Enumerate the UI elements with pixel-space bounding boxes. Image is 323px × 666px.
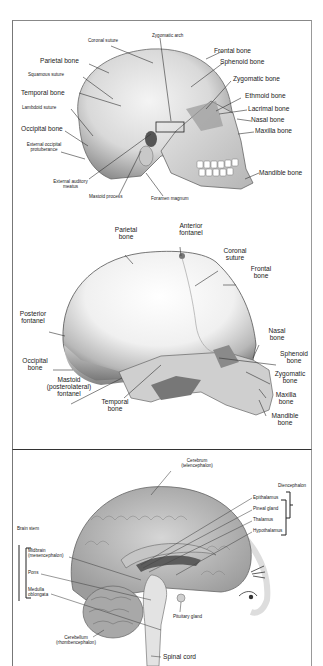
label-maxilla-bone: Maxilla bone [255, 127, 292, 134]
label-external-occipital-protuberance: External occipital protuberance [19, 142, 69, 153]
label-sphenoid-bone: Sphenoid bone [220, 58, 264, 65]
label-cerebellum: Cerebellum (rhombencephalon) [48, 635, 104, 646]
label-frontal-bone: Frontal bone [245, 265, 277, 279]
label-occipital-bone: Occipital bone [17, 357, 53, 371]
label-cerebrum: Cerebrum (telencephalon) [173, 458, 221, 469]
label-diencephalon: Diencephalon [278, 483, 306, 488]
brain-panel: Cerebrum (telencephalon) Diencephalon Ep… [12, 450, 312, 666]
label-occipital-bone: Occipital bone [21, 125, 63, 132]
label-frontal-bone: Frontal bone [214, 47, 251, 54]
label-parietal-bone: Parietal bone [40, 57, 79, 64]
label-nasal-bone: Nasal bone [263, 327, 291, 341]
label-temporal-bone: Temporal bone [96, 398, 134, 412]
label-zygomatic-arch: Zygomatic arch [152, 33, 183, 38]
label-medulla-oblongata: Medulla oblongata [28, 587, 48, 598]
label-epithalamus: Epithalamus [253, 495, 278, 500]
label-midbrain: Midbrain (mesencephalon) [28, 548, 64, 559]
label-coronal-suture: Coronal suture [88, 38, 118, 43]
label-hypothalamus: Hypothalamus [253, 528, 282, 533]
label-thalamus: Thalamus [253, 517, 273, 522]
label-external-auditory-meatus: External auditory meatus [43, 179, 98, 190]
label-nasal-bone: Nasal bone [251, 116, 284, 123]
label-mastoid-fontanel: Mastoid (posterolateral) fontanel [41, 376, 97, 398]
label-temporal-bone: Temporal bone [21, 89, 65, 96]
label-squamous-suture: Squamous suture [28, 72, 64, 77]
label-zygomatic-bone: Zygomatic bone [270, 370, 310, 384]
label-coronal-suture: Coronal suture [217, 247, 253, 261]
label-pituitary-gland: Pituitary gland [173, 614, 202, 619]
label-pons: Pons [28, 570, 38, 575]
label-mandible-bone: Mandible bone [259, 169, 302, 176]
label-mandible-bone: Mandible bone [267, 412, 303, 426]
label-foramen-magnum: Foramen magnum [151, 196, 189, 201]
label-parietal-bone: Parietal bone [108, 226, 144, 240]
label-lacrimal-bone: Lacrimal bone [248, 105, 289, 112]
label-lambdoid-suture: Lambdoid suture [22, 105, 56, 110]
infant-skull-panel: Parietal bone Anterior fontanel Coronal … [12, 213, 312, 450]
label-pineal-gland: Pineal gland [253, 506, 278, 511]
label-spinal-cord: Spinal cord [163, 653, 196, 660]
label-sphenoid-bone: Sphenoid bone [275, 350, 313, 364]
label-zygomatic-bone: Zygomatic bone [233, 75, 280, 82]
label-anterior-fontanel: Anterior fontanel [171, 222, 211, 236]
adult-skull-panel: Coronal suture Zygomatic arch Frontal bo… [12, 20, 312, 214]
label-ethmoid-bone: Ethmoid bone [245, 92, 286, 99]
label-mastoid-process: Mastoid process [89, 194, 122, 199]
label-maxilla-bone: Maxilla bone [271, 391, 301, 405]
label-posterior-fontanel: Posterior fontanel [15, 310, 51, 324]
label-brain-stem: Brain stem [17, 526, 39, 531]
